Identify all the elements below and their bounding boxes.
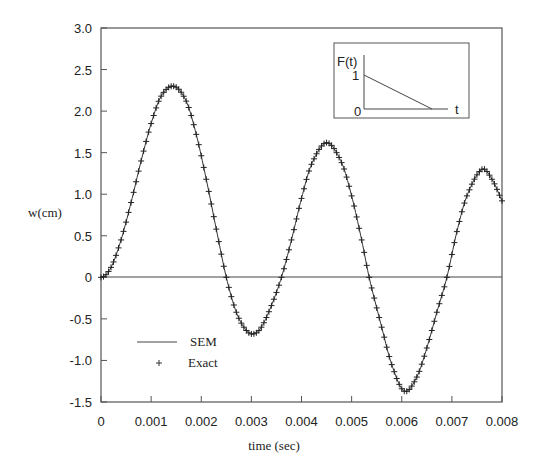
y-tick-label: -1.5: [70, 395, 92, 410]
y-tick-label: 3.0: [74, 21, 92, 36]
x-tick-label: 0.004: [285, 414, 318, 429]
x-tick-label: 0.002: [185, 414, 218, 429]
chart-svg: 3.02.52.01.51.00.50-0.5-1.0-1.5 00.0010.…: [0, 0, 551, 476]
inset-x-label: t: [455, 102, 459, 117]
exact-series-markers: [98, 83, 505, 394]
y-tick-label: 0.5: [74, 229, 92, 244]
inset-y-tick: 1: [352, 68, 359, 83]
legend-label-exact: Exact: [188, 355, 218, 370]
y-tick-label: -1.0: [70, 353, 92, 368]
x-tick-label: 0.006: [385, 414, 418, 429]
y-tick-label: -0.5: [70, 312, 92, 327]
x-axis: 00.0010.0020.0030.0040.0050.0060.0070.00…: [97, 396, 518, 429]
legend-plus-symbol: [156, 360, 162, 366]
x-axis-label: time (sec): [248, 438, 300, 453]
x-tick-label: 0: [97, 414, 104, 429]
y-tick-label: 2.5: [74, 63, 92, 78]
legend: SEM Exact: [137, 334, 218, 370]
y-tick-label: 0: [85, 270, 92, 285]
plot-series: [98, 83, 505, 394]
x-tick-label: 0.007: [436, 414, 469, 429]
x-tick-label: 0.005: [335, 414, 368, 429]
y-tick-label: 1.5: [74, 146, 92, 161]
legend-label-sem: SEM: [190, 334, 217, 349]
x-tick-label: 0.001: [135, 414, 168, 429]
inset-load-diagram: F(t) 1 0 t: [334, 43, 469, 119]
x-tick-label: 0.008: [486, 414, 519, 429]
y-tick-label: 1.0: [74, 187, 92, 202]
x-tick-label: 0.003: [235, 414, 268, 429]
sem-series-line: [101, 86, 502, 391]
inset-title: F(t): [337, 54, 357, 69]
y-axis-label: w(cm): [28, 205, 62, 220]
inset-origin-label: 0: [354, 104, 361, 119]
y-tick-label: 2.0: [74, 104, 92, 119]
